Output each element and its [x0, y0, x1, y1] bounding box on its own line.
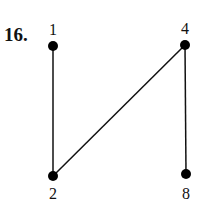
node-2 — [48, 171, 58, 181]
edge-2-4 — [53, 45, 185, 176]
node-label-8: 8 — [182, 185, 190, 202]
hasse-diagram: 1 4 2 8 — [0, 0, 204, 212]
node-4 — [180, 40, 190, 50]
node-8 — [181, 169, 191, 179]
node-label-4: 4 — [181, 20, 189, 37]
node-1 — [48, 41, 58, 51]
edge-4-8 — [185, 45, 186, 174]
node-label-1: 1 — [49, 21, 57, 38]
node-label-2: 2 — [49, 185, 57, 202]
